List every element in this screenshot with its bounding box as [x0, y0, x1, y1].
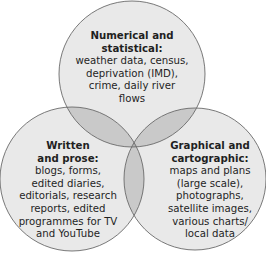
items-written-line2: edited diaries, — [10, 178, 126, 191]
title-written-line2: and prose: — [10, 153, 126, 166]
items-graphical-line2: (large scale), — [156, 178, 264, 191]
items-graphical-line1: maps and plans — [156, 165, 264, 178]
title-graphical-line1: Graphical and — [156, 140, 264, 153]
items-graphical-line3: photographs, — [156, 190, 264, 203]
items-graphical-line6: local data — [156, 228, 264, 241]
items-written-line6: and YouTube — [10, 228, 126, 241]
label-numerical: Numerical and statistical: weather data,… — [70, 30, 194, 106]
items-graphical-line4: satellite images, — [156, 203, 264, 216]
items-written-line1: blogs, forms, — [10, 165, 126, 178]
items-numerical-line1: weather data, census, — [70, 55, 194, 68]
items-numerical-line2: deprivation (IMD), — [70, 68, 194, 81]
title-numerical-line1: Numerical and — [70, 30, 194, 43]
title-numerical-line2: statistical: — [70, 43, 194, 56]
items-written-line4: reports, edited — [10, 203, 126, 216]
items-written-line5: programmes for TV — [10, 216, 126, 229]
items-numerical-line4: flows — [70, 93, 194, 106]
title-written-line1: Written — [10, 140, 126, 153]
items-graphical-line5: various charts/ — [156, 216, 264, 229]
venn-diagram: Numerical and statistical: weather data,… — [0, 0, 266, 256]
items-written-line3: editorials, research — [10, 190, 126, 203]
label-written: Written and prose: blogs, forms, edited … — [10, 140, 126, 241]
label-graphical: Graphical and cartographic: maps and pla… — [156, 140, 264, 241]
items-numerical-line3: crime, daily river — [70, 80, 194, 93]
title-graphical-line2: cartographic: — [156, 153, 264, 166]
